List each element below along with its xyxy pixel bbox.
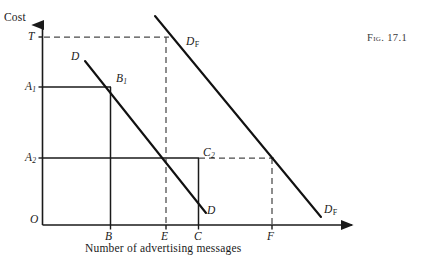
origin-label: O [30, 214, 38, 226]
x-tick-label-e: E [161, 231, 168, 243]
figure-container: Cost O T A1 A2 B E C F B1 C2 D D DF DF N… [0, 0, 437, 266]
curve-label-d-bottom: D [207, 205, 215, 217]
curve-df-foreign [155, 16, 321, 217]
y-tick-label-a2: A2 [25, 152, 36, 164]
curve-d-domestic [85, 61, 206, 213]
y-tick-label-a1: A1 [25, 81, 36, 93]
x-tick-label-f: F [267, 231, 274, 243]
curve-label-df-bottom: DF [324, 204, 337, 216]
figure-caption: Fig. 17.1 [367, 33, 407, 44]
x-axis-title: Number of advertising messages [85, 243, 241, 255]
curve-label-d-top: D [71, 51, 79, 63]
y-axis-title: Cost [4, 12, 26, 24]
x-tick-label-b: B [105, 231, 112, 243]
point-label-b1: B1 [116, 73, 127, 85]
curve-label-df-top: DF [186, 36, 199, 48]
point-label-c2: C2 [203, 147, 214, 159]
y-tick-label-t: T [28, 31, 34, 43]
x-tick-label-c: C [194, 231, 202, 243]
